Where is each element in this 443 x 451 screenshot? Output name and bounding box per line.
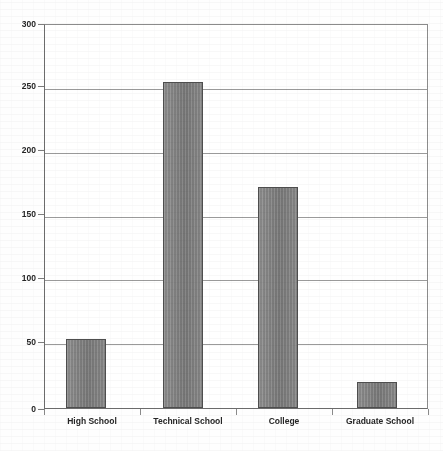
y-tick-label-0: 0	[2, 405, 36, 414]
x-tick-label-college: College	[236, 417, 332, 426]
bar-chart: 300 250 200 150 100 50 0 High School Tec…	[0, 0, 443, 451]
y-tickmark-300	[38, 24, 44, 25]
x-tickmark-2	[236, 409, 237, 415]
y-tick-label-100: 100	[2, 274, 36, 283]
y-tick-label-50: 50	[2, 338, 36, 347]
x-tickmark-1	[140, 409, 141, 415]
x-tickmark-4	[428, 409, 429, 415]
x-tick-label-high-school: High School	[44, 417, 140, 426]
y-tick-label-150: 150	[2, 210, 36, 219]
y-tickmark-100	[38, 278, 44, 279]
x-tick-label-technical-school: Technical School	[140, 417, 236, 426]
x-tickmark-3	[332, 409, 333, 415]
y-tick-label-200: 200	[2, 146, 36, 155]
y-tick-label-300: 300	[2, 20, 36, 29]
y-tickmark-50	[38, 342, 44, 343]
y-axis: 300 250 200 150 100 50 0	[0, 0, 443, 451]
x-tickmark-0	[44, 409, 45, 415]
y-tickmark-250	[38, 86, 44, 87]
y-tickmark-200	[38, 150, 44, 151]
y-tick-label-250: 250	[2, 82, 36, 91]
y-tickmark-150	[38, 214, 44, 215]
x-tick-label-graduate-school: Graduate School	[332, 417, 428, 426]
